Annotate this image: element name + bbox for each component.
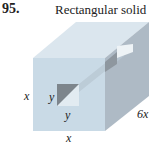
label-length-6x: 6x: [137, 107, 148, 122]
label-hole-height-y: y: [49, 90, 54, 105]
label-width-x: x: [66, 131, 71, 146]
rectangular-solid-figure: [0, 0, 166, 146]
label-height-x: x: [24, 89, 29, 104]
label-hole-width-y: y: [65, 108, 70, 123]
